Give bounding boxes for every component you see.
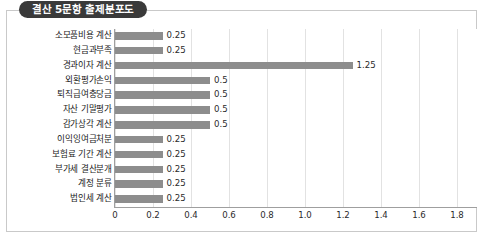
bar	[115, 106, 210, 114]
x-tick-label: 0.6	[222, 210, 236, 220]
bar	[115, 166, 163, 174]
category-label: 보험료 기간 계산	[52, 148, 112, 162]
bar-row: 현금과부족0.25	[0, 44, 483, 58]
x-tick-label: 0.4	[184, 210, 198, 220]
y-axis-line	[114, 29, 115, 207]
chart-title-badge: 결산 5문항 출제분포도	[19, 1, 147, 18]
category-label: 퇴직급여충당금	[57, 88, 112, 102]
bar-row: 소모품비용 계산0.25	[0, 29, 483, 43]
x-tick-label: 0.8	[260, 210, 274, 220]
category-label: 외환평가손익	[65, 74, 112, 88]
bar	[115, 62, 353, 70]
bar-value-label: 0.25	[167, 29, 186, 43]
bar-value-label: 0.5	[214, 88, 228, 102]
bar-row: 부가세 결산분개0.25	[0, 163, 483, 177]
bar-value-label: 1.25	[357, 59, 376, 73]
category-label: 부가세 결산분개	[55, 163, 112, 177]
x-tick-label: 1.2	[336, 210, 350, 220]
bar	[115, 121, 210, 129]
bar-value-label: 0.5	[214, 118, 228, 132]
bar-row: 경과이자 계산1.25	[0, 59, 483, 73]
category-label: 소모품비용 계산	[55, 29, 112, 43]
x-tick-label: 1.4	[374, 210, 388, 220]
bar-value-label: 0.25	[167, 133, 186, 147]
bar-row: 보험료 기간 계산0.25	[0, 148, 483, 162]
category-label: 계정 분류	[78, 177, 112, 191]
category-label: 감가상각 계산	[63, 118, 112, 132]
bar-row: 감가상각 계산0.5	[0, 118, 483, 132]
category-label: 법인세 계산	[70, 192, 112, 206]
bar-row: 이익잉여금처분0.25	[0, 133, 483, 147]
bar-value-label: 0.25	[167, 177, 186, 191]
bar	[115, 151, 163, 159]
bar-row: 법인세 계산0.25	[0, 192, 483, 206]
bar-value-label: 0.25	[167, 192, 186, 206]
bar-value-label: 0.5	[214, 74, 228, 88]
bar-value-label: 0.25	[167, 163, 186, 177]
bar-row: 계정 분류0.25	[0, 177, 483, 191]
bar-row: 자산 기말평가0.5	[0, 103, 483, 117]
bar	[115, 32, 163, 40]
category-label: 자산 기말평가	[63, 103, 112, 117]
bar	[115, 91, 210, 99]
x-tick-label: 0.2	[146, 210, 160, 220]
bar-rows: 소모품비용 계산0.25현금과부족0.25경과이자 계산1.25외환평가손익0.…	[0, 29, 483, 207]
bar	[115, 77, 210, 85]
x-tick-label: 1.6	[412, 210, 426, 220]
x-axis-line	[114, 207, 477, 208]
category-label: 경과이자 계산	[63, 59, 112, 73]
chart-screenshot: 결산 5문항 출제분포도 소모품비용 계산0.25현금과부족0.25경과이자 계…	[0, 0, 483, 239]
bar	[115, 47, 163, 55]
x-tick-label: 0	[112, 210, 117, 220]
bar-value-label: 0.25	[167, 148, 186, 162]
bar	[115, 136, 163, 144]
category-label: 이익잉여금처분	[57, 133, 112, 147]
bar	[115, 180, 163, 188]
category-label: 현금과부족	[73, 44, 112, 58]
bar-row: 퇴직급여충당금0.5	[0, 88, 483, 102]
x-tick-label: 1.8	[450, 210, 464, 220]
bar	[115, 195, 163, 203]
bar-value-label: 0.25	[167, 44, 186, 58]
bar-value-label: 0.5	[214, 103, 228, 117]
bar-row: 외환평가손익0.5	[0, 74, 483, 88]
x-tick-label: 1.0	[298, 210, 312, 220]
